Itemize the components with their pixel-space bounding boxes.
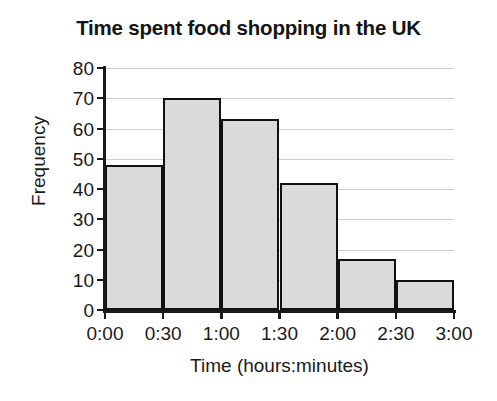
y-tick-label: 30 [48,210,94,229]
histogram-bar [105,165,163,310]
y-tick-label: 50 [48,149,94,168]
x-tick-label: 3:00 [419,324,489,343]
y-axis-spine [103,66,106,312]
histogram-bar [163,98,221,310]
gridline [105,98,454,99]
y-tick-label: 20 [48,240,94,259]
y-tick-label: 40 [48,180,94,199]
chart-title: Time spent food shopping in the UK [0,16,497,40]
histogram-bar [280,183,338,310]
y-tick-label: 60 [48,119,94,138]
histogram-bar [338,259,396,310]
y-tick-label: 80 [48,59,94,78]
histogram-bar [396,280,454,310]
histogram-figure: Time spent food shopping in the UK Frequ… [0,0,497,401]
gridline [105,129,454,130]
x-axis-spine [103,310,456,313]
plot-area: 01020304050607080 0:000:301:001:302:002:… [105,68,454,310]
y-axis-title: Frequency [28,61,50,261]
x-axis-title: Time (hours:minutes) [105,355,454,377]
y-tick-label: 10 [48,270,94,289]
histogram-bar [221,119,279,310]
y-tick-label: 70 [48,89,94,108]
y-tick-label: 0 [48,301,94,320]
gridline [105,68,454,69]
gridline [105,159,454,160]
